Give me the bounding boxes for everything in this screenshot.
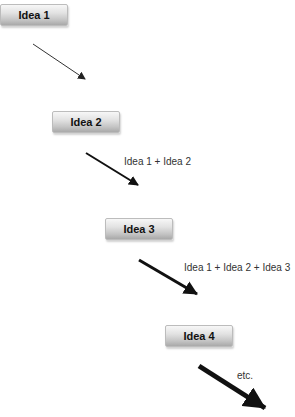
idea-box-3: Idea 3 [105,218,173,240]
sum-label-1: Idea 1 + Idea 2 [124,156,191,167]
idea-box-4: Idea 4 [165,325,233,347]
idea-label: Idea 2 [70,116,101,128]
sum-label-2: Idea 1 + Idea 2 + Idea 3 [184,262,290,273]
arrows-layer [0,0,295,417]
idea-box-1: Idea 1 [0,4,68,26]
idea-label: Idea 3 [123,223,154,235]
arrow-1 [33,44,85,79]
idea-label: Idea 1 [18,9,49,21]
idea-label: Idea 4 [183,330,214,342]
arrow-4 [199,366,265,408]
sum-label-etc: etc. [237,370,253,381]
idea-box-2: Idea 2 [52,111,120,133]
